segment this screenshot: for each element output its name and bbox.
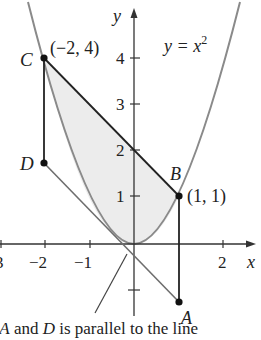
x-tick-label: −1 <box>74 253 92 272</box>
y-axis-label: y <box>111 6 121 26</box>
x-axis-label: x <box>246 252 255 272</box>
caption-text: and <box>10 319 43 338</box>
x-axis-arrow-icon <box>246 241 256 248</box>
x-tick-label: 2 <box>218 253 227 272</box>
x-tick-label: 3 <box>0 253 4 272</box>
y-tick-label: 4 <box>116 49 125 68</box>
caption-text: is parallel to the line <box>55 319 198 338</box>
label-D: D <box>19 153 34 174</box>
y-tick-label: 3 <box>116 95 125 114</box>
pointer-line <box>95 254 127 313</box>
label-C-coord: (−2, 4) <box>50 38 99 59</box>
label-B-coord: (1, 1) <box>187 186 226 207</box>
y-tick-label: 1 <box>116 187 125 206</box>
label-B: B <box>170 164 181 184</box>
label-C: C <box>20 49 33 70</box>
parabola-figure: C (−2, 4) D B (1, 1) A y = x2 y x 3 −2 −… <box>0 0 261 340</box>
caption: ng A and D is parallel to the line <box>0 316 261 340</box>
point-A <box>175 298 182 305</box>
point-D <box>40 159 47 166</box>
point-C <box>40 54 47 61</box>
y-axis-arrow-icon <box>131 8 138 18</box>
curve-label: y = x2 <box>162 33 207 56</box>
x-tick-label: −2 <box>29 253 47 272</box>
y-tick-label: 2 <box>116 141 125 160</box>
shaded-region <box>44 58 179 244</box>
point-B <box>175 192 182 199</box>
caption-point-d: D <box>43 319 55 338</box>
caption-point-a: A <box>0 319 10 338</box>
